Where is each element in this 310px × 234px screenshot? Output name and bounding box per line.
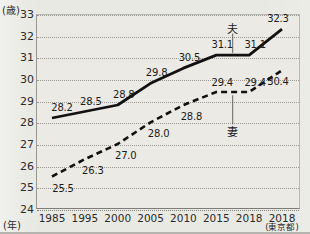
x-axis-tick-year: 2010 <box>170 212 197 224</box>
series-label-husband: 夫 <box>227 20 238 36</box>
point-value-label: 28.5 <box>80 95 101 106</box>
y-axis-tick-label: 26 <box>0 159 34 172</box>
x-axis-tick-year: 1985 <box>39 212 66 224</box>
y-axis-tick-label: 29 <box>0 94 34 107</box>
y-axis-tick-label: 32 <box>0 29 34 42</box>
x-axis-tick-sublabel: (東京都) <box>265 223 299 232</box>
x-axis-tick-year: 2018 <box>236 212 263 224</box>
point-value-label: 31.1 <box>244 39 265 50</box>
point-value-label: 27.0 <box>115 150 136 161</box>
gridline <box>37 210 299 211</box>
x-axis-unit-label: (年) <box>3 217 21 232</box>
point-value-label: 28.2 <box>51 102 72 113</box>
y-axis-tick-label: 30 <box>0 73 34 86</box>
point-value-label: 32.3 <box>267 13 288 24</box>
point-value-label: 28.8 <box>181 111 202 122</box>
point-value-label: 29.4 <box>244 77 265 88</box>
y-axis-tick-labels: 33323130292827262524 <box>0 14 34 209</box>
series-label-wife: 妻 <box>227 123 238 139</box>
chart-figure: (歳) (年) 33323130292827262524 19851995200… <box>0 0 310 234</box>
x-axis-tick-year: 2005 <box>137 212 164 224</box>
point-value-label: 26.3 <box>82 165 103 176</box>
point-value-label: 28.0 <box>148 128 169 139</box>
point-value-label: 28.8 <box>113 89 134 100</box>
x-axis-tick-label: 2000 <box>104 212 131 224</box>
x-axis-tick-label: 2015 <box>203 212 230 224</box>
y-axis-tick-label: 25 <box>0 181 34 194</box>
x-axis-tick-label: 1995 <box>71 212 98 224</box>
point-value-label: 31.1 <box>212 39 233 50</box>
point-value-label: 29.4 <box>212 77 233 88</box>
point-value-label: 30.5 <box>179 52 200 63</box>
point-value-label: 29.8 <box>146 67 167 78</box>
x-axis-tick-year: 1995 <box>71 212 98 224</box>
bottom-rule <box>0 232 310 234</box>
x-axis-tick-label: 2018(東京都) <box>265 212 299 232</box>
x-axis-tick-year: 2000 <box>104 212 131 224</box>
point-value-label: 25.5 <box>52 182 73 193</box>
x-axis-tick-label: 1985 <box>39 212 66 224</box>
x-axis-tick-label: 2005 <box>137 212 164 224</box>
x-axis-tick-year: 2015 <box>203 212 230 224</box>
y-axis-tick-label: 28 <box>0 116 34 129</box>
y-axis-tick-label: 31 <box>0 51 34 64</box>
y-axis-tick-label: 33 <box>0 8 34 21</box>
y-axis-tick-label: 24 <box>0 203 34 216</box>
y-axis-tick-label: 27 <box>0 138 34 151</box>
x-axis-tick-label: 2010 <box>170 212 197 224</box>
point-value-label: 30.4 <box>267 76 288 87</box>
x-axis-tick-label: 2018 <box>236 212 263 224</box>
